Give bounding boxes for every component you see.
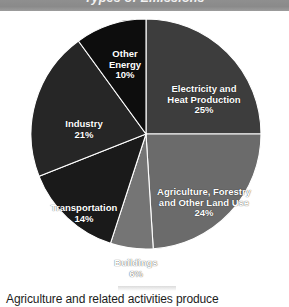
- pie-slice-group: [31, 19, 261, 249]
- chart-page: Types of Emissions Electricity and Heat …: [0, 0, 289, 307]
- pie-chart: [30, 18, 262, 250]
- chart-title: Types of Emissions: [0, 0, 289, 5]
- pie-value-buildings: 6%: [98, 269, 174, 280]
- pie-slice: [146, 19, 261, 134]
- chart-title-bar: Types of Emissions: [0, 0, 289, 11]
- chart-caption: Agriculture and related activities produ…: [0, 286, 289, 307]
- pie-label-buildings-line1: Buildings: [98, 258, 174, 269]
- pie-label-buildings: Buildings 6%: [98, 258, 174, 279]
- pie-slice: [146, 134, 261, 249]
- caption-fade-decoration: [118, 286, 176, 291]
- pie-chart-svg: [30, 18, 262, 250]
- caption-text: Agriculture and related activities produ…: [6, 292, 286, 307]
- pie-chart-area: Electricity and Heat Production 25% Agri…: [0, 11, 289, 283]
